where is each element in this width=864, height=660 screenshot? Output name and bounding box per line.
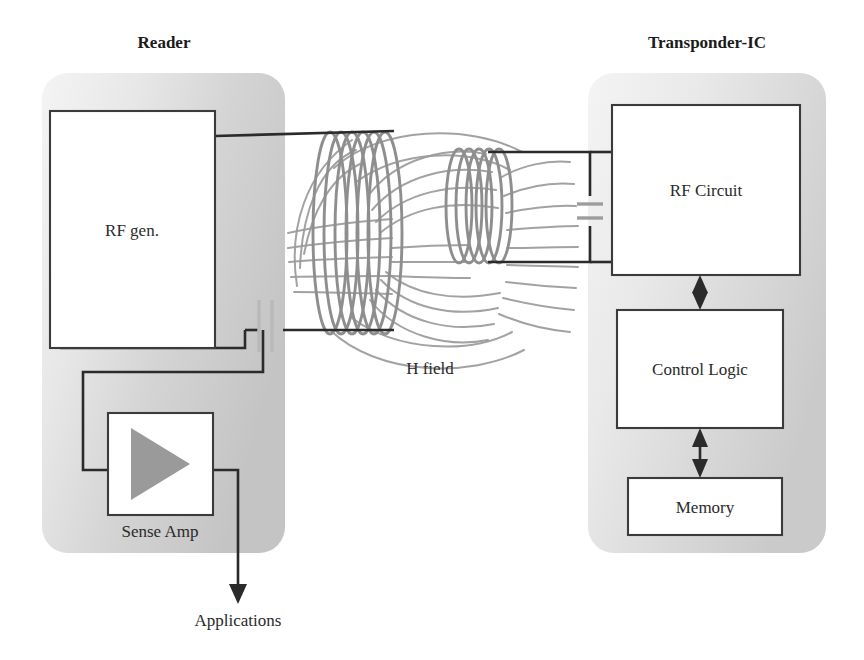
applications-label: Applications — [195, 611, 282, 630]
rf-gen-label: RF gen. — [105, 221, 159, 240]
applications-arrow-icon — [229, 584, 247, 604]
rfid-diagram: Reader Transponder-IC — [0, 0, 864, 660]
rf-circuit-label: RF Circuit — [670, 181, 743, 200]
reader-title: Reader — [138, 33, 191, 52]
transponder-title: Transponder-IC — [648, 33, 766, 52]
sense-amp-label: Sense Amp — [122, 522, 199, 541]
control-logic-label: Control Logic — [652, 360, 748, 379]
memory-label: Memory — [676, 498, 735, 517]
h-field-label: H field — [406, 359, 454, 378]
